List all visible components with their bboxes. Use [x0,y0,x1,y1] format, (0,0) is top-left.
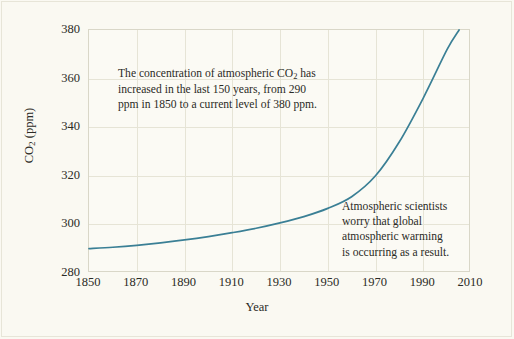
y-tick-label-340: 340 [40,120,80,133]
annotation-secondary-line1: Atmospheric scientists [342,200,447,213]
annotation-primary-subscript: 2 [293,71,297,81]
annotation-secondary-line2: worry that global [342,215,422,228]
annotation-primary-line3: ppm in 1850 to a current level of 380 pp… [118,98,317,111]
annotation-primary: The concentration of atmospheric CO2 has… [118,66,348,113]
x-tick-label-1950: 1950 [314,276,339,289]
x-tick-label-1990: 1990 [410,276,435,289]
y-tick-label-280: 280 [40,266,80,279]
x-tick-label-1870: 1870 [123,276,148,289]
x-tick-label-2010: 2010 [458,276,483,289]
x-axis-title: Year [0,300,514,315]
annotation-secondary: Atmospheric scientistsworry that globala… [342,199,472,260]
x-tick-label-1930: 1930 [267,276,292,289]
annotation-primary-line2: increased in the last 150 years, from 29… [118,83,306,96]
y-axis-title-suffix: (ppm) [22,108,36,142]
x-tick-label-1890: 1890 [171,276,196,289]
x-tick-label-1850: 1850 [76,276,101,289]
y-tick-label-300: 300 [40,217,80,230]
annotation-secondary-line4: is occurring as a result. [342,246,449,259]
y-tick-label-360: 360 [40,71,80,84]
x-tick-label-1970: 1970 [362,276,387,289]
annotation-primary-line1-prefix: The concentration of atmospheric CO [118,67,293,80]
co2-chart-figure: CO2 (ppm) 380 360 340 320 300 280 1850 1… [0,0,514,339]
y-tick-label-320: 320 [40,169,80,182]
annotation-secondary-line3: atmospheric warming [342,230,443,243]
annotation-primary-line1-suffix: has [297,67,315,80]
y-axis-title-subscript: 2 [27,141,37,146]
y-tick-label-380: 380 [40,23,80,36]
y-axis-title: CO2 (ppm) [22,81,37,191]
y-axis-title-prefix: CO [22,146,36,163]
x-tick-label-1910: 1910 [219,276,244,289]
